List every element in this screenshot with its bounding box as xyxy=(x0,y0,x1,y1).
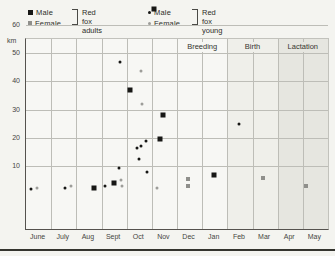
data-point xyxy=(128,87,133,92)
data-point xyxy=(139,70,142,73)
data-point xyxy=(146,170,149,173)
y-axis-unit-label: km xyxy=(7,37,16,44)
gridline-vertical xyxy=(253,39,254,229)
data-point xyxy=(156,186,159,189)
gridline-vertical xyxy=(51,39,52,229)
legend-group-name: Red foxyoung xyxy=(202,8,222,35)
gridline-horizontal xyxy=(26,81,328,82)
gridline-horizontal xyxy=(26,138,328,139)
legend-entry-adult-female: Female xyxy=(28,18,61,28)
data-point xyxy=(186,177,190,181)
x-tick-label-oct: Oct xyxy=(126,233,151,240)
x-tick-label-aug: Aug xyxy=(75,233,100,240)
bottom-rule xyxy=(0,249,335,251)
data-point xyxy=(120,179,123,182)
gridline-horizontal xyxy=(26,110,328,111)
gridline-horizontal xyxy=(26,166,328,167)
x-tick-label-june: June xyxy=(25,233,50,240)
data-point xyxy=(158,137,163,142)
y-tick-label: 20 xyxy=(4,134,20,141)
data-point xyxy=(136,146,139,149)
bracket-icon xyxy=(72,9,78,25)
data-point xyxy=(111,181,116,186)
gridline-vertical xyxy=(177,39,178,229)
x-tick-label-jan: Jan xyxy=(201,233,226,240)
data-point xyxy=(140,103,143,106)
x-tick-label-feb: Feb xyxy=(226,233,251,240)
gridline-vertical xyxy=(127,39,128,229)
phase-label-lactation: Lactation xyxy=(285,42,321,52)
data-point xyxy=(104,185,107,188)
plot-area: BreedingBirthLactation xyxy=(25,38,329,230)
young-male-dot-icon xyxy=(148,11,151,14)
data-point xyxy=(35,186,38,189)
data-point xyxy=(304,184,308,188)
y-tick-label: 60 xyxy=(4,20,20,27)
data-point xyxy=(140,145,143,148)
legend-entry-adult-male: Male xyxy=(28,7,61,17)
gridline-vertical xyxy=(76,39,77,229)
legend-label: Female xyxy=(154,19,180,28)
gridline-vertical xyxy=(152,39,153,229)
data-point xyxy=(118,166,121,169)
x-tick-label-sept: Sept xyxy=(101,233,126,240)
phase-label-birth: Birth xyxy=(242,42,263,52)
data-point xyxy=(121,185,124,188)
gridline-vertical xyxy=(102,39,103,229)
legend-label: Female xyxy=(35,19,61,28)
y-tick-label: 50 xyxy=(4,49,20,56)
data-point xyxy=(238,122,241,125)
x-tick-label-apr: Apr xyxy=(277,233,302,240)
gridline-horizontal xyxy=(26,53,328,54)
legend-entry-young-female: Female xyxy=(148,18,180,28)
legend-label: Male xyxy=(36,8,53,17)
data-point xyxy=(261,176,265,180)
data-point xyxy=(64,186,67,189)
x-tick-label-mar: Mar xyxy=(252,233,277,240)
x-tick-label-may: May xyxy=(302,233,327,240)
figure: Male Female Red foxadults Male Female Re… xyxy=(0,0,335,256)
adult-male-square-icon xyxy=(28,10,33,15)
y-tick-label: 40 xyxy=(4,77,20,84)
data-point xyxy=(144,139,147,142)
gridline-horizontal xyxy=(26,25,328,26)
gridline-vertical xyxy=(202,39,203,229)
data-point xyxy=(30,187,33,190)
y-tick-label: 30 xyxy=(4,105,20,112)
gridline-vertical xyxy=(227,39,228,229)
data-point xyxy=(119,60,122,63)
legend-group-name: Red foxadults xyxy=(82,8,102,35)
gridline-vertical xyxy=(303,39,304,229)
phase-label-breeding: Breeding xyxy=(184,42,220,52)
data-point xyxy=(212,172,217,177)
data-point xyxy=(92,185,97,190)
x-tick-label-nov: Nov xyxy=(151,233,176,240)
x-tick-label-dec: Dec xyxy=(176,233,201,240)
gridline-vertical xyxy=(278,39,279,229)
data-point xyxy=(186,184,190,188)
y-tick-label: 10 xyxy=(4,162,20,169)
bracket-icon xyxy=(192,9,198,25)
data-point xyxy=(70,185,73,188)
x-tick-label-july: July xyxy=(50,233,75,240)
data-point xyxy=(152,7,157,12)
data-point xyxy=(160,113,165,118)
data-point xyxy=(137,158,140,161)
